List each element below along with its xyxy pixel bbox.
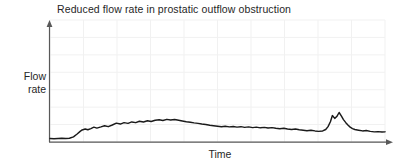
plot-area	[0, 0, 408, 165]
y-axis-arrowhead	[47, 20, 53, 27]
chart-figure: Reduced flow rate in prostatic outflow o…	[0, 0, 408, 165]
x-axis-arrowhead	[386, 139, 393, 145]
vertical-gridlines	[50, 20, 385, 142]
